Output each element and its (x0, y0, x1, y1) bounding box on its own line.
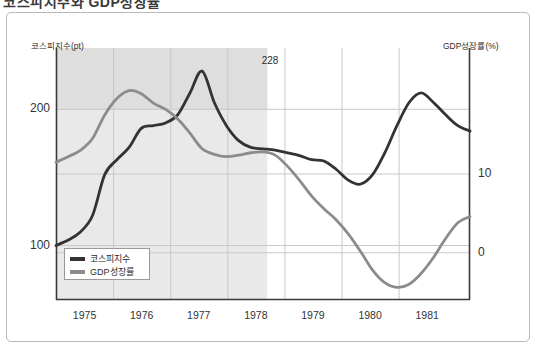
annotation-228-1: 228 (262, 55, 279, 66)
x-tick-1980: 1980 (345, 309, 395, 321)
x-tick-1976: 1976 (117, 309, 167, 321)
chart-screenshot: 코스피지수와 GDP성장률 코스피지수(pt) GDP성장률(%) 100200… (0, 0, 539, 353)
x-tick-1981: 1981 (402, 309, 452, 321)
legend-swatch-gdp (70, 270, 85, 274)
chart-plot-area: 코스피지수(pt) GDP성장률(%) 100200 010 197519761… (0, 0, 539, 353)
x-tick-1979: 1979 (288, 309, 338, 321)
x-tick-1975: 1975 (60, 309, 110, 321)
left-axis-title: 코스피지수(pt) (31, 39, 84, 51)
chart-legend: 코스피지수 GDP성장률 (64, 248, 150, 280)
legend-label-kospi: 코스피지수 (90, 254, 130, 264)
legend-swatch-kospi (70, 257, 85, 261)
right-axis-title: GDP성장률(%) (443, 39, 499, 51)
line-chart (0, 0, 539, 353)
x-tick-1978: 1978 (231, 309, 281, 321)
right-tick-0: 0 (478, 245, 485, 259)
right-tick-10: 10 (478, 166, 491, 180)
legend-item-gdp: GDP성장률 (70, 265, 145, 278)
legend-label-gdp: GDP성장률 (90, 267, 134, 277)
left-tick-200: 200 (14, 101, 50, 115)
legend-item-kospi: 코스피지수 (70, 252, 145, 265)
x-tick-1977: 1977 (174, 309, 224, 321)
left-tick-100: 100 (14, 238, 50, 252)
